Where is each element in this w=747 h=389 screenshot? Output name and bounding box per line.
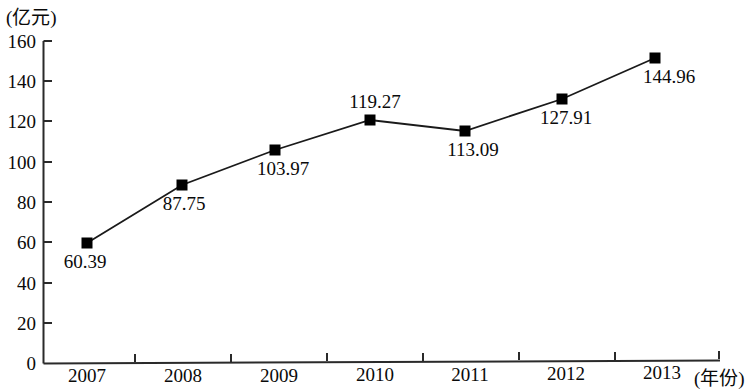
x-axis-unit-label: (年份) <box>694 363 745 389</box>
y-tick-label-40: 40 <box>0 274 36 293</box>
x-tick-label-2012: 2012 <box>526 364 606 383</box>
data-label-2010: 119.27 <box>330 92 420 111</box>
data-point-marker <box>557 94 568 105</box>
x-tick-label-2013: 2013 <box>622 363 702 382</box>
data-label-2013: 144.96 <box>624 67 714 86</box>
data-point-marker <box>270 145 281 156</box>
y-tick-label-120: 120 <box>0 112 36 131</box>
data-point-marker <box>460 126 471 137</box>
data-label-2009: 103.97 <box>238 159 328 178</box>
data-label-2007: 60.39 <box>40 252 130 271</box>
y-tick-label-0: 0 <box>0 354 36 373</box>
x-tick-label-2010: 2010 <box>335 365 415 384</box>
x-tick-label-2008: 2008 <box>143 366 223 385</box>
data-line <box>87 58 655 243</box>
x-tick-label-2009: 2009 <box>239 366 319 385</box>
data-label-2012: 127.91 <box>521 108 611 127</box>
data-label-2008: 87.75 <box>139 194 229 213</box>
data-point-marker <box>177 180 188 191</box>
plot-area <box>0 0 747 389</box>
y-tick-label-140: 140 <box>0 72 36 91</box>
y-tick-label-20: 20 <box>0 314 36 333</box>
data-point-marker <box>365 115 376 126</box>
y-tick-label-80: 80 <box>0 193 36 212</box>
x-tick-label-2011: 2011 <box>430 365 510 384</box>
x-tick-label-2007: 2007 <box>47 366 127 385</box>
data-label-2011: 113.09 <box>428 140 518 159</box>
data-point-marker <box>650 53 661 64</box>
y-tick-label-160: 160 <box>0 32 36 51</box>
y-tick-label-60: 60 <box>0 233 36 252</box>
line-chart: (亿元) 160 140 120 100 80 <box>0 0 747 389</box>
y-tick-label-100: 100 <box>0 153 36 172</box>
data-point-marker <box>82 238 93 249</box>
